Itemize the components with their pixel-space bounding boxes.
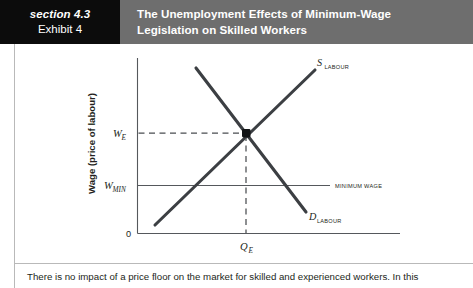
exhibit-header-left: section 4.3 Exhibit 4 (0, 0, 120, 44)
exhibit-header-title: The Unemployment Effects of Minimum-Wage… (120, 0, 473, 44)
demand-curve-label-main: D (308, 211, 317, 222)
equilibrium-point-marker (242, 129, 251, 138)
exhibit-header: section 4.3 Exhibit 4 The Unemployment E… (0, 0, 473, 44)
exhibit-caption: There is no impact of a price floor on t… (27, 270, 467, 285)
y-tick-wmin: W MIN (104, 180, 127, 194)
exhibit-title-line-1: The Unemployment Effects of Minimum-Wage (137, 6, 465, 22)
x-tick-qe-main: Q (240, 241, 248, 252)
x-axis-title: Quantity of Labour (194, 258, 280, 260)
y-axis-title: Wage (price of labour) (86, 93, 97, 194)
demand-curve-label: D LABOUR (308, 211, 342, 224)
supply-curve (155, 70, 315, 225)
minimum-wage-label: MINIMUM WAGE (335, 183, 382, 189)
y-tick-wmin-sub: MIN (112, 185, 128, 194)
x-tick-qe-sub: E (248, 246, 254, 255)
caption-divider (15, 263, 473, 264)
supply-curve-label-sub: LABOUR (325, 64, 350, 70)
exhibit-figure: section 4.3 Exhibit 4 The Unemployment E… (0, 0, 473, 288)
y-tick-we-sub: E (121, 133, 127, 142)
exhibit-title-line-2: Legislation on Skilled Workers (137, 22, 465, 38)
supply-curve-label: S LABOUR (317, 57, 349, 70)
y-tick-we: W E (113, 128, 127, 142)
section-label: section 4.3 (30, 8, 91, 21)
chart-svg: W E W MIN 0 Q E S LABOUR D (0, 44, 473, 260)
demand-curve (196, 68, 306, 212)
demand-curve-label-sub: LABOUR (317, 218, 342, 224)
supply-demand-chart: W E W MIN 0 Q E S LABOUR D (0, 44, 473, 260)
supply-curve-label-main: S (317, 57, 322, 68)
x-tick-qe: Q E (240, 241, 254, 255)
origin-label: 0 (126, 229, 131, 239)
exhibit-number-label: Exhibit 4 (38, 23, 82, 36)
